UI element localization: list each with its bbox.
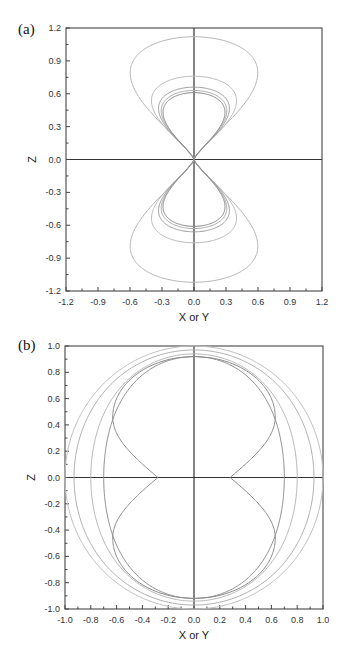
x-tick-label: 1.2	[316, 297, 329, 307]
x-tick-label: -0.3	[154, 297, 170, 307]
y-tick-label: 0.6	[47, 394, 60, 404]
y-axis-title: Z	[25, 474, 37, 481]
panel-label: (a)	[18, 21, 35, 38]
x-tick-label: -0.6	[109, 615, 125, 625]
x-tick-label: -0.8	[83, 615, 99, 625]
y-tick-label: -1.2	[45, 286, 61, 296]
x-tick-label: 0.3	[220, 297, 233, 307]
y-tick-label: -0.2	[44, 499, 60, 509]
y-axis-title: Z	[26, 156, 38, 163]
x-tick-label: -0.2	[160, 615, 176, 625]
y-tick-label: 1.2	[48, 23, 61, 33]
y-tick-label: -0.3	[45, 187, 61, 197]
x-tick-label: -0.9	[90, 297, 106, 307]
polar-curve-plot-b: (b)-1.0-0.8-0.6-0.4-0.20.00.20.40.60.81.…	[0, 322, 342, 647]
x-tick-label: 0.2	[214, 615, 227, 625]
y-tick-label: -0.8	[44, 578, 60, 588]
y-tick-label: -0.6	[45, 220, 61, 230]
x-tick-label: -0.4	[135, 615, 151, 625]
x-tick-label: 1.0	[317, 615, 330, 625]
x-axis: -1.0-0.8-0.6-0.4-0.20.00.20.40.60.81.0	[57, 605, 329, 625]
y-tick-label: 1.0	[47, 341, 60, 351]
x-axis: -1.2-0.9-0.6-0.30.00.30.60.91.2	[58, 287, 328, 307]
y-tick-label: 0.3	[48, 122, 61, 132]
panel-a: (a)-1.2-0.9-0.6-0.30.00.30.60.91.21.20.9…	[0, 0, 342, 322]
y-tick-label: 0.4	[47, 420, 60, 430]
y-tick-label: 0.2	[47, 446, 60, 456]
polar-lobe-plot-a: (a)-1.2-0.9-0.6-0.30.00.30.60.91.21.20.9…	[0, 0, 342, 322]
x-tick-label: 0.4	[239, 615, 252, 625]
x-axis-title: X or Y	[179, 311, 210, 322]
x-tick-label: 0.8	[291, 615, 304, 625]
x-axis-title: X or Y	[179, 629, 210, 641]
y-tick-label: 0.9	[48, 56, 61, 66]
y-tick-label: -1.0	[44, 604, 60, 614]
x-tick-label: 0.0	[188, 297, 201, 307]
x-tick-label: -0.6	[122, 297, 138, 307]
x-tick-label: 0.6	[252, 297, 265, 307]
x-tick-label: -1.2	[58, 297, 74, 307]
panel-label: (b)	[18, 337, 36, 354]
y-tick-label: -0.4	[44, 525, 60, 535]
y-tick-label: 0.0	[47, 473, 60, 483]
y-tick-label: 0.8	[47, 367, 60, 377]
panel-b: (b)-1.0-0.8-0.6-0.4-0.20.00.20.40.60.81.…	[0, 322, 342, 647]
x-tick-label: 0.9	[284, 297, 297, 307]
x-tick-label: 0.0	[188, 615, 201, 625]
y-tick-label: 0.6	[48, 89, 61, 99]
y-tick-label: 0.0	[48, 155, 61, 165]
y-tick-label: -0.9	[45, 253, 61, 263]
y-tick-label: -0.6	[44, 551, 60, 561]
x-tick-label: 0.6	[265, 615, 278, 625]
x-tick-label: -1.0	[57, 615, 73, 625]
